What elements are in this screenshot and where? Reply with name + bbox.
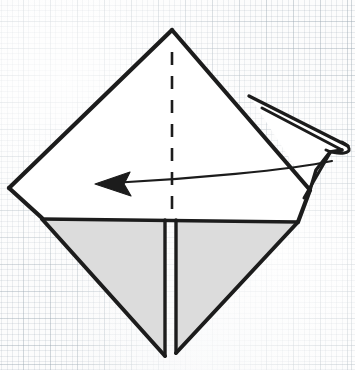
- origami-diagram-figure: [0, 0, 355, 370]
- origami-illustration: [0, 0, 355, 370]
- upper-front-panel: [9, 30, 310, 222]
- paper-panels: [9, 30, 349, 356]
